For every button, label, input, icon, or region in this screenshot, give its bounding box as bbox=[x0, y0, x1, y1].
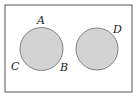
venn-diagram: A B C D bbox=[0, 0, 139, 98]
label-c: C bbox=[11, 60, 20, 73]
right-circle bbox=[76, 28, 118, 70]
label-a: A bbox=[36, 14, 45, 27]
label-b: B bbox=[59, 61, 68, 74]
left-circle bbox=[20, 28, 63, 71]
label-d: D bbox=[112, 23, 122, 36]
